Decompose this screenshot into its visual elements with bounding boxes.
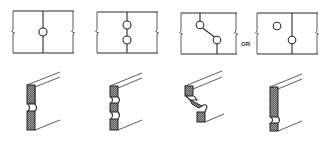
stud-detail-offset-notch (185, 71, 224, 122)
plan-view-offset-pipes (180, 13, 238, 54)
notch-icon (28, 104, 37, 111)
notch-icon (111, 112, 120, 119)
notch-icon (186, 96, 197, 100)
stud-section-hatch (270, 87, 278, 117)
pipe-icon (123, 36, 131, 44)
stud-section-hatch (185, 86, 193, 96)
stud-detail-single-notch (27, 72, 60, 130)
stud-line-diagonal (203, 28, 215, 37)
notch-icon (271, 117, 280, 123)
pipe-icon (213, 36, 221, 44)
notch-icon (111, 97, 120, 103)
stud-detail-lower-notch (270, 74, 302, 131)
notch-icon (202, 105, 207, 112)
stud-notching-diagram: OR (0, 0, 323, 142)
pipe-icon (123, 21, 131, 29)
diagonal-cut-hatch (190, 100, 202, 108)
pipe-icon (288, 36, 296, 44)
break-mark-icon (12, 11, 15, 53)
break-mark-icon (156, 12, 159, 53)
break-mark-icon (72, 11, 75, 53)
plan-view-pipe-beside-stud (256, 13, 319, 54)
plan-view-single-pipe (12, 11, 75, 53)
stud-section-hatch (197, 112, 205, 122)
break-mark-icon (256, 13, 259, 54)
stud-section-hatch (27, 111, 35, 130)
plan-view-two-stacked-pipes (96, 12, 159, 53)
stud-section-hatch (110, 86, 118, 97)
pipe-icon (39, 28, 47, 36)
break-mark-icon (180, 13, 183, 54)
stud-section-hatch (27, 85, 35, 104)
pipe-icon (196, 21, 204, 29)
break-mark-icon (316, 13, 319, 54)
break-mark-icon (96, 12, 99, 53)
stud-detail-two-notches (110, 73, 142, 130)
or-label: OR (241, 41, 251, 47)
stud-section-hatch (110, 103, 118, 112)
stud-section-hatch (110, 119, 118, 130)
pipe-icon (273, 22, 281, 30)
stud-section-hatch (270, 123, 278, 131)
break-mark-icon (235, 13, 238, 54)
